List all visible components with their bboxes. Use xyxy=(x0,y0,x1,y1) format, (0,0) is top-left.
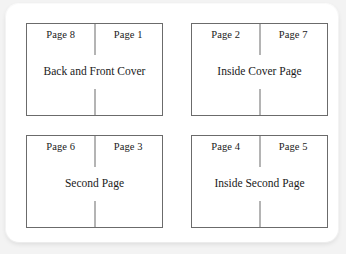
sheet-caption: Second Page xyxy=(31,167,158,201)
sheet-header: Page 4 Page 5 xyxy=(192,136,327,158)
sheet-header: Page 6 Page 3 xyxy=(27,136,162,158)
sheet-panel: Page 6 Page 3 Second Page xyxy=(26,135,163,228)
sheet-caption-text: Inside Cover Page xyxy=(217,65,301,79)
sheet-caption: Inside Second Page xyxy=(196,167,323,201)
right-page-label: Page 5 xyxy=(260,136,328,158)
sheet-grid: Page 8 Page 1 Back and Front Cover Page … xyxy=(26,23,328,228)
diagram-card: Page 8 Page 1 Back and Front Cover Page … xyxy=(6,4,338,242)
left-page-label: Page 8 xyxy=(27,24,95,46)
sheet-caption: Back and Front Cover xyxy=(31,55,158,89)
left-page-label: Page 2 xyxy=(192,24,260,46)
sheet-caption-text: Inside Second Page xyxy=(214,177,304,191)
right-page-label: Page 7 xyxy=(260,24,328,46)
sheet-header: Page 2 Page 7 xyxy=(192,24,327,46)
sheet-caption-text: Second Page xyxy=(65,177,124,191)
sheet-panel: Page 2 Page 7 Inside Cover Page xyxy=(191,23,328,116)
sheet-caption: Inside Cover Page xyxy=(196,55,323,89)
sheet-caption-text: Back and Front Cover xyxy=(44,65,146,79)
right-page-label: Page 1 xyxy=(95,24,163,46)
left-page-label: Page 6 xyxy=(27,136,95,158)
sheet-panel: Page 8 Page 1 Back and Front Cover xyxy=(26,23,163,116)
right-page-label: Page 3 xyxy=(95,136,163,158)
booklet-imposition-diagram: Page 8 Page 1 Back and Front Cover Page … xyxy=(0,0,346,254)
sheet-panel: Page 4 Page 5 Inside Second Page xyxy=(191,135,328,228)
left-page-label: Page 4 xyxy=(192,136,260,158)
sheet-header: Page 8 Page 1 xyxy=(27,24,162,46)
